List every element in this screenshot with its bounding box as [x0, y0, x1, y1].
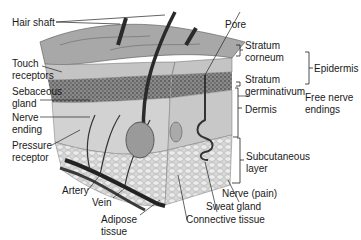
- label-free-nerve-endings-2: endings: [305, 104, 340, 115]
- label-sebaceous-gland-2: gland: [12, 98, 36, 109]
- label-vein: Vein: [92, 197, 111, 208]
- label-nerve-ending-2: ending: [12, 124, 42, 135]
- label-pressure-receptor-2: receptor: [12, 152, 49, 163]
- label-adipose-tissue-1: Adipose: [101, 214, 137, 225]
- label-connective-tissue: Connective tissue: [186, 214, 265, 225]
- skin-diagram: Hair shaft Touch receptors Sebaceous gla…: [0, 0, 361, 240]
- label-pressure-receptor-1: Pressure: [12, 140, 52, 151]
- label-sweat-gland: Sweat gland: [206, 201, 261, 212]
- label-nerve-ending-1: Nerve: [12, 112, 39, 123]
- label-artery: Artery: [62, 185, 89, 196]
- label-free-nerve-endings-1: Free nerve: [305, 92, 353, 103]
- right-face-epidermis: [172, 58, 232, 75]
- label-sebaceous-gland-1: Sebaceous: [12, 86, 62, 97]
- label-touch-receptors-2: receptors: [12, 70, 54, 81]
- label-dermis: Dermis: [245, 104, 277, 115]
- label-epidermis: Epidermis: [314, 63, 358, 74]
- label-pore: Pore: [225, 19, 246, 30]
- label-stratum-corneum-2: corneum: [245, 52, 284, 63]
- label-subcutaneous-layer-1: Subcutaneous: [246, 151, 310, 162]
- skin-block-illustration: [0, 0, 361, 240]
- label-stratum-germinativum-1: Stratum: [245, 74, 280, 85]
- label-stratum-germinativum-2: germinativum: [245, 86, 305, 97]
- label-adipose-tissue-2: tissue: [101, 226, 127, 237]
- label-stratum-corneum-1: Stratum: [245, 40, 280, 51]
- label-touch-receptors-1: Touch: [12, 58, 39, 69]
- label-nerve-pain: Nerve (pain): [222, 188, 277, 199]
- label-subcutaneous-layer-2: layer: [246, 163, 268, 174]
- label-hair-shaft: Hair shaft: [12, 17, 55, 28]
